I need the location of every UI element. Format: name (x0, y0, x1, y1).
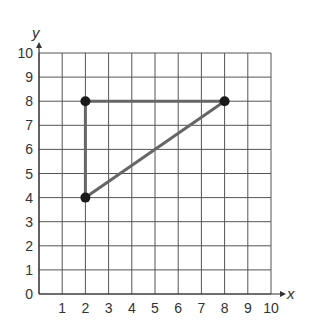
y-tick-label: 8 (25, 93, 33, 109)
x-tick-label: 5 (151, 300, 159, 316)
y-axis-label: y (31, 24, 41, 41)
y-tick-label: 9 (25, 69, 33, 85)
y-tick-label: 4 (25, 190, 33, 206)
y-tick-label: 1 (25, 262, 33, 278)
tick-labels: 12345678910012345678910 (17, 45, 279, 316)
axes (36, 42, 286, 297)
x-tick-label: 10 (263, 300, 279, 316)
x-tick-label: 6 (174, 300, 182, 316)
grid-lines (39, 53, 271, 294)
vertex-point (80, 193, 90, 203)
x-tick-label: 9 (244, 300, 252, 316)
vertex-point (80, 96, 90, 106)
x-tick-label: 4 (128, 300, 136, 316)
y-tick-label: 7 (25, 117, 33, 133)
y-tick-label: 10 (17, 45, 33, 61)
x-tick-label: 1 (58, 300, 66, 316)
y-tick-label: 5 (25, 166, 33, 182)
x-tick-label: 3 (105, 300, 113, 316)
x-axis-arrow-icon (280, 291, 286, 297)
y-tick-label: 2 (25, 238, 33, 254)
x-tick-label: 8 (221, 300, 229, 316)
y-tick-label: 0 (25, 286, 33, 302)
x-axis-label: x (286, 285, 295, 302)
y-tick-label: 3 (25, 214, 33, 230)
y-axis-arrow-icon (36, 42, 42, 48)
x-tick-label: 7 (198, 300, 206, 316)
x-tick-label: 2 (82, 300, 90, 316)
coordinate-grid-chart: 12345678910012345678910 x y (0, 0, 316, 327)
y-tick-label: 6 (25, 141, 33, 157)
vertex-point (220, 96, 230, 106)
